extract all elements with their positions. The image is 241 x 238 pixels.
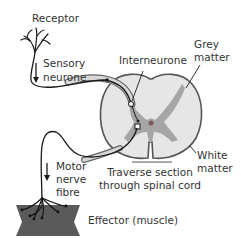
motor-label-3: fibre (56, 186, 80, 198)
sensory-cell-body (105, 78, 109, 82)
motor-direction-arrow-icon (44, 163, 50, 181)
white-matter-pointer (190, 146, 196, 153)
grey-matter-label-2: matter (194, 51, 230, 63)
sensory-neurone-label-1: Sensory (43, 57, 85, 69)
white-matter-label-1: White (197, 149, 228, 161)
section-label-2: through spinal cord (99, 179, 201, 191)
receptor-endings (21, 28, 50, 52)
effector-label: Effector (muscle) (88, 214, 178, 226)
interneurone-label: Interneurone (119, 54, 187, 66)
motor-label-1: Motor (56, 160, 87, 172)
motor-label-2: nerve (56, 173, 86, 185)
effector-muscle (16, 198, 80, 236)
central-canal (149, 121, 154, 126)
sensory-direction-arrow-icon (33, 63, 39, 83)
reflex-arc-diagram: Receptor Sensory neurone Interneurone Gr… (0, 0, 241, 238)
grey-matter-label-1: Grey (194, 38, 219, 50)
sensory-neurone-label-2: neurone (43, 71, 86, 83)
section-label-1: Traverse section (106, 166, 193, 178)
receptor-label: Receptor (32, 12, 80, 24)
white-matter-label-2: matter (197, 162, 233, 174)
